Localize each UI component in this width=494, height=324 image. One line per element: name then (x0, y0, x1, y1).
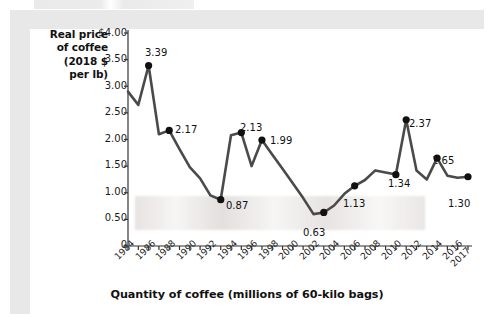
plot-area (0, 0, 494, 324)
data-point-marker (238, 129, 245, 136)
x-axis-ticks (128, 246, 468, 250)
data-point-marker (145, 62, 152, 69)
data-point-marker (258, 136, 265, 143)
price-series-markers (145, 62, 472, 216)
data-point-marker (320, 209, 327, 216)
data-point-marker (392, 171, 399, 178)
figure-root: Real price of coffee (2018 $ per lb) $4.… (0, 0, 494, 324)
data-point-marker (403, 116, 410, 123)
data-point-marker (166, 127, 173, 134)
data-point-marker (217, 196, 224, 203)
axis-lines (128, 30, 472, 246)
data-point-marker (433, 155, 440, 162)
x-axis-title: Quantity of coffee (millions of 60-kilo … (0, 288, 494, 301)
data-point-marker (351, 182, 358, 189)
price-series-line (128, 66, 468, 215)
data-point-marker (464, 173, 471, 180)
